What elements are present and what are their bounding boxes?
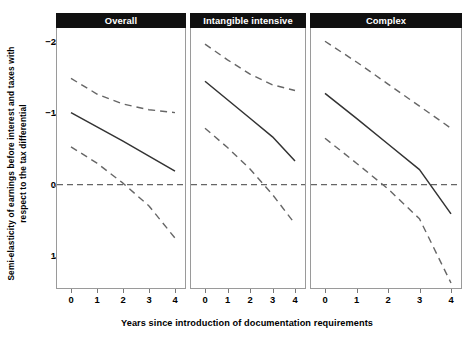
x-tick-label: 3 — [412, 294, 428, 305]
x-tick-label: 0 — [63, 294, 79, 305]
x-tick-mark — [388, 289, 389, 293]
y-axis-label: Semi-elasticity of earnings before inter… — [6, 39, 29, 289]
series-line — [205, 128, 295, 224]
x-tick-mark — [123, 289, 124, 293]
panel-title-strip: Complex — [310, 13, 462, 28]
x-tick-label: 1 — [220, 294, 236, 305]
chart-panel: Intangible intensive — [190, 13, 306, 289]
x-tick-mark — [451, 289, 452, 293]
y-tick-label: −1 — [34, 107, 56, 118]
panel-series-svg — [57, 28, 185, 288]
x-tick-label: 0 — [197, 294, 213, 305]
series-line — [205, 81, 295, 161]
x-tick-label: 4 — [167, 294, 183, 305]
x-tick-label: 4 — [287, 294, 303, 305]
x-tick-label: 2 — [380, 294, 396, 305]
y-tick-label: 0 — [34, 179, 56, 190]
x-axis-label: Years since introduction of documentatio… — [30, 318, 464, 328]
panel-series-svg — [311, 28, 461, 288]
y-axis-ticks: −2−101 — [28, 0, 56, 341]
x-tick-label: 2 — [115, 294, 131, 305]
x-tick-mark — [325, 289, 326, 293]
x-tick-mark — [97, 289, 98, 293]
x-tick-mark — [205, 289, 206, 293]
x-tick-label: 0 — [317, 294, 333, 305]
chart-panel: Overall — [56, 13, 186, 289]
x-tick-label: 1 — [89, 294, 105, 305]
x-tick-label: 3 — [265, 294, 281, 305]
x-tick-mark — [175, 289, 176, 293]
panel-series-svg — [191, 28, 305, 288]
y-tick-label: −2 — [34, 36, 56, 47]
chart-figure: Semi-elasticity of earnings before inter… — [0, 0, 464, 341]
series-line — [71, 147, 175, 238]
series-line — [325, 41, 451, 128]
x-tick-mark — [71, 289, 72, 293]
series-line — [325, 138, 451, 283]
series-line — [205, 44, 295, 90]
panel-plot-area — [310, 28, 462, 289]
x-tick-label: 3 — [141, 294, 157, 305]
x-tick-label: 2 — [242, 294, 258, 305]
series-line — [71, 78, 175, 112]
x-tick-mark — [357, 289, 358, 293]
x-tick-label: 4 — [443, 294, 459, 305]
x-tick-mark — [420, 289, 421, 293]
x-tick-mark — [295, 289, 296, 293]
series-line — [71, 113, 175, 171]
panel-plot-area — [56, 28, 186, 289]
x-tick-mark — [273, 289, 274, 293]
panel-title-strip: Intangible intensive — [190, 13, 306, 28]
x-tick-label: 1 — [349, 294, 365, 305]
y-tick-label: 1 — [34, 250, 56, 261]
x-tick-mark — [149, 289, 150, 293]
chart-panel: Complex — [310, 13, 462, 289]
panel-plot-area — [190, 28, 306, 289]
x-tick-mark — [228, 289, 229, 293]
x-tick-mark — [250, 289, 251, 293]
panel-title-strip: Overall — [56, 13, 186, 28]
